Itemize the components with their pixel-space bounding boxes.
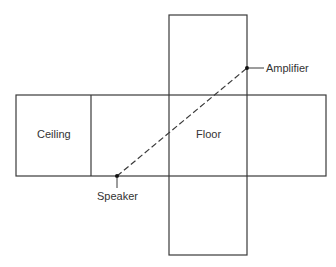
ceiling-label: Ceiling: [37, 129, 71, 140]
amplifier-label: Amplifier: [266, 63, 309, 74]
floor-label: Floor: [196, 129, 221, 140]
wire-path-dashed: [117, 68, 247, 176]
speaker-point: [115, 174, 119, 178]
amplifier-point: [245, 66, 249, 70]
speaker-label: Speaker: [97, 191, 138, 202]
